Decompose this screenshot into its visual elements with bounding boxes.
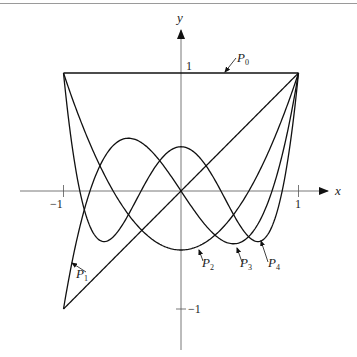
y-axis-label: y <box>175 10 183 25</box>
x-axis-label: x <box>334 183 341 198</box>
x-tick-label-pos: 1 <box>295 197 301 211</box>
p4-pointer <box>261 241 268 262</box>
p4-label: P4 <box>267 255 280 272</box>
x-tick-label-neg: −1 <box>50 197 63 211</box>
y-tick-label-neg: −1 <box>188 302 201 316</box>
p2-label: P2 <box>201 255 214 272</box>
p3-label: P3 <box>239 255 252 272</box>
p1-label: P1 <box>75 266 88 283</box>
legendre-plot: −1 1 1 −1 x y P0 P1 P2 P3 P4 <box>0 0 357 357</box>
y-tick-label-pos: 1 <box>186 59 192 73</box>
p0-pointer <box>225 58 236 72</box>
p0-label: P0 <box>236 50 249 67</box>
